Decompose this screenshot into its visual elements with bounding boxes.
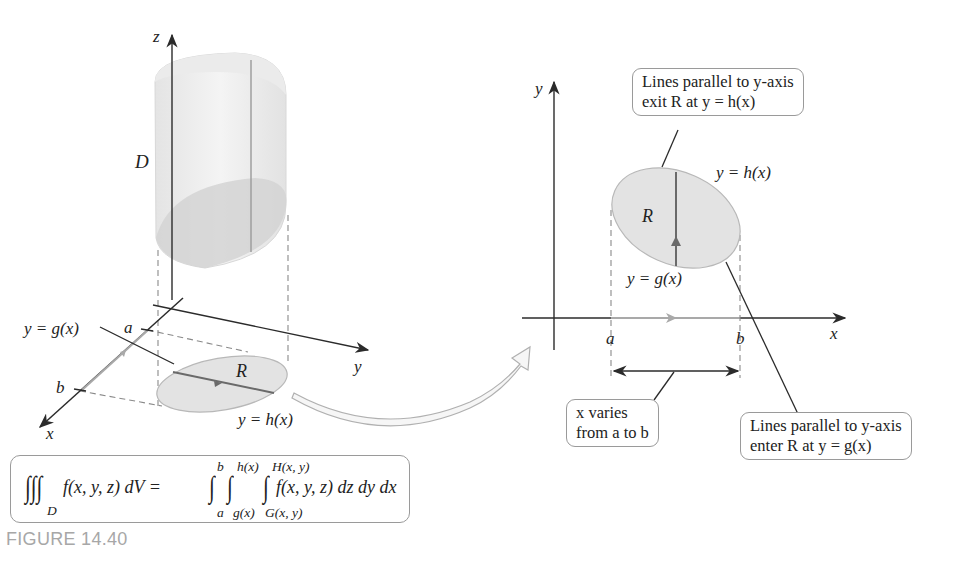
inner-lower-limit: G(x, y)	[265, 506, 302, 520]
outer-upper-limit: b	[217, 460, 224, 474]
x-axis-label-3d: x	[46, 425, 54, 442]
region-label-r-3d: R	[236, 362, 247, 380]
callout-exit-region: Lines parallel to y-axis exit R at y = h…	[632, 68, 804, 116]
curve-label-g-2d: y = g(x)	[627, 270, 682, 287]
middle-upper-limit: h(x)	[237, 460, 259, 474]
x-axis-label-2d: x	[830, 325, 838, 342]
callout-enter-line1: Lines parallel to y-axis	[750, 416, 902, 436]
tick-label-a-3d: a	[124, 319, 133, 336]
y-axis-label-3d: y	[354, 358, 362, 375]
callout-x-range: x varies from a to b	[566, 399, 659, 447]
tick-label-a-2d: a	[606, 330, 615, 347]
y-axis-label-2d: y	[535, 80, 543, 97]
callout-x-range-line2: from a to b	[576, 423, 649, 443]
callout-exit-line2: exit R at y = h(x)	[642, 92, 794, 112]
callout-exit-line1: Lines parallel to y-axis	[642, 72, 794, 92]
transition-arrow	[292, 347, 530, 426]
triple-integral-sign: ∫∫∫	[25, 472, 42, 502]
inner-upper-limit: H(x, y)	[272, 460, 309, 474]
lhs-integrand: f(x, y, z) dV =	[63, 478, 161, 496]
tick-label-b-2d: b	[736, 330, 745, 347]
solid-label-d: D	[135, 152, 149, 171]
tick-label-b-3d: b	[56, 379, 65, 396]
figure-caption: FIGURE 14.40	[6, 529, 128, 550]
callout-enter-line2: enter R at y = g(x)	[750, 436, 902, 456]
region-label-r-2d: R	[642, 207, 653, 225]
outer-lower-limit: a	[217, 506, 224, 520]
solid-d	[155, 53, 286, 268]
callout-enter-region: Lines parallel to y-axis enter R at y = …	[740, 412, 912, 460]
integral-region-d: D	[47, 504, 57, 518]
middle-integral-sign: ∫	[227, 472, 233, 502]
outer-integral-sign: ∫	[209, 472, 215, 502]
curve-label-g-3d: y = g(x)	[24, 320, 79, 337]
middle-lower-limit: g(x)	[233, 506, 255, 520]
z-axis-label: z	[153, 28, 160, 45]
triple-integral-formula: ∫∫∫ D f(x, y, z) dV = ∫ b a ∫ h(x) g(x) …	[10, 455, 410, 523]
y-axis-3d	[153, 305, 368, 350]
curve-label-h-3d: y = h(x)	[238, 411, 293, 428]
rhs-integrand: f(x, y, z) dz dy dx	[276, 478, 396, 496]
callout-x-range-line1: x varies	[576, 403, 649, 423]
inner-integral-sign: ∫	[263, 472, 269, 502]
curve-label-h-2d: y = h(x)	[716, 164, 771, 181]
